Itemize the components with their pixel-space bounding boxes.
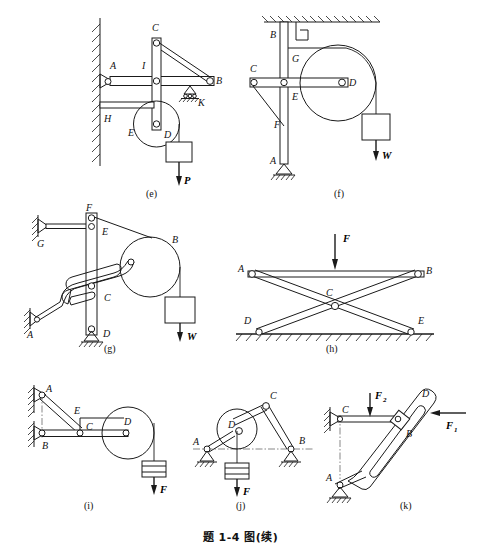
weight-block-e <box>166 142 192 162</box>
label-force-f1-sub-k: 1 <box>454 426 458 434</box>
arm-cd-f <box>250 78 348 87</box>
ceiling-hatching-f <box>262 16 380 22</box>
weight-block-g <box>165 297 195 323</box>
label-c-h: C <box>326 287 333 298</box>
weight-block-f <box>362 114 390 140</box>
subfigure-f: B G C D E F A W <box>250 14 430 189</box>
subfigure-e: A B C D E H I K P <box>86 14 266 189</box>
label-force-w-f: W <box>382 150 392 161</box>
label-b-k: B <box>406 428 412 439</box>
brace-cb-outer-e <box>158 42 210 77</box>
label-force-f-h: F <box>342 233 350 244</box>
label-c-j: C <box>270 390 277 401</box>
label-a-h: A <box>237 263 245 274</box>
plate-caption: 题 1-4 图(续) <box>0 528 481 544</box>
label-k-e: K <box>197 97 206 108</box>
label-a-e: A <box>109 60 117 71</box>
pin-d-e <box>153 121 159 127</box>
force-arrowhead-f-h <box>332 259 338 270</box>
link-dc-inner-j <box>235 410 267 425</box>
pin-d-h <box>256 329 262 335</box>
label-d-f: D <box>348 77 357 88</box>
label-e-f: E <box>291 91 298 102</box>
slotted-link-outer-k <box>348 389 436 490</box>
bar-bd-i <box>42 430 128 437</box>
label-force-w-g: W <box>187 331 197 342</box>
pin-support-a-f <box>271 164 295 180</box>
label-f-g: F <box>85 202 93 213</box>
label-b-i: B <box>42 440 48 451</box>
label-b-j: B <box>299 435 305 446</box>
subfigure-caption-g: (g) <box>104 343 116 354</box>
pin-c-h <box>331 302 338 309</box>
pin-b-k <box>395 416 401 422</box>
label-d-h: D <box>243 315 252 326</box>
label-c-k: C <box>342 404 349 415</box>
subfigure-k: C D B A F 2 F 1 <box>318 385 473 505</box>
subfigure-caption-f: (f) <box>334 188 344 199</box>
label-f-f: F <box>273 119 281 130</box>
subfigure-caption-h: (h) <box>326 343 338 354</box>
member-ac-inner-i <box>40 399 78 433</box>
label-e-i: E <box>73 405 80 416</box>
pin-d-f <box>339 79 346 86</box>
pin-c-i <box>77 430 83 436</box>
pin-e-h <box>408 329 414 335</box>
force-arrowhead-f1-k <box>430 410 440 416</box>
label-force-f-i: F <box>159 484 167 495</box>
bar-h-e <box>100 102 154 108</box>
pin-b-h <box>415 271 422 278</box>
label-force-f-j: F <box>242 486 250 497</box>
label-e-e: E <box>127 127 134 138</box>
pin-b-i <box>39 430 45 436</box>
label-b-g: B <box>172 234 178 245</box>
label-e-g: E <box>101 226 108 237</box>
label-a-f: A <box>269 155 277 166</box>
bar-ab-e <box>110 77 214 86</box>
slotted-bar-ac-g <box>36 261 134 322</box>
pin-support-b-j <box>279 451 301 467</box>
pin-e-g <box>89 224 95 230</box>
member-bd-outer-h <box>262 276 418 334</box>
subfigure-h: F A B C D E <box>226 220 441 350</box>
wall-support-a-i <box>28 385 46 417</box>
bar-fd-g <box>86 213 97 335</box>
figure-plate: A B C D E H I K P (e) <box>0 0 481 556</box>
force-arrowhead-f-i <box>151 485 157 495</box>
leg-a-inner-j <box>209 436 235 452</box>
roller-support-k-e <box>179 86 199 102</box>
pin-a-e <box>105 79 111 85</box>
label-c-e: C <box>152 22 159 33</box>
label-force-p-e: P <box>184 175 191 186</box>
force-arrowhead-p-e <box>176 176 182 186</box>
label-g-f: G <box>292 53 299 64</box>
label-force-f2-k: F <box>374 390 382 401</box>
label-force-f1-k: F <box>445 420 453 431</box>
label-d-g: D <box>102 328 111 339</box>
wall-hatching-e <box>92 24 100 162</box>
weight-block-i <box>142 461 166 477</box>
pin-c-k <box>337 416 342 421</box>
pin-d-i <box>123 430 129 436</box>
pin-support-a-j <box>195 451 217 467</box>
pin-i-e <box>153 78 159 84</box>
force-arrowhead-f-j <box>234 487 240 497</box>
subfigure-i: A B C D E F <box>18 383 173 503</box>
label-a-g: A <box>26 329 34 340</box>
pin-e-f <box>281 79 287 85</box>
subfigure-g: F G E B C A D W <box>24 205 239 355</box>
column-ba-f <box>280 22 288 164</box>
label-b-h: B <box>426 265 432 276</box>
pin-pulley-center-g <box>128 259 134 265</box>
ground-hatching-h <box>236 334 432 341</box>
label-h-e: H <box>103 113 112 124</box>
pin-c-f <box>251 79 257 85</box>
label-a-k: A <box>325 472 333 483</box>
label-i-e: I <box>141 60 146 71</box>
label-d-e: D <box>163 129 172 140</box>
subfigure-caption-j: (j) <box>236 500 245 511</box>
label-g-g: G <box>37 238 44 249</box>
label-force-f2-sub-k: 2 <box>382 396 387 404</box>
label-c-i: C <box>86 421 93 432</box>
pin-c-g <box>88 283 94 289</box>
